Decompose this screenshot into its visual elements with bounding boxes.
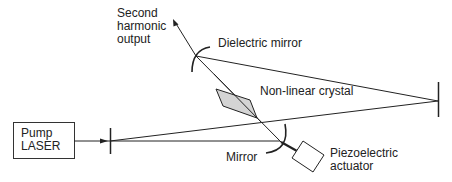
output-arrowhead-icon [173,19,179,27]
output-label-line3: output [117,33,166,46]
piezo-stem [281,142,297,151]
pump-beam-arrowhead-icon [100,139,108,144]
dielectric-mirror [192,47,210,72]
piezo-label-line2: actuator [330,160,398,173]
piezo-actuator-box [292,141,324,172]
pump-laser-label: Pump LASER [21,127,60,153]
curved-mirror [266,124,286,153]
laser-label: LASER [21,140,60,153]
second-harmonic-output-label: Second harmonic output [117,7,166,46]
piezo-actuator-label: Piezoelectric actuator [330,147,398,173]
nonlinear-crystal-label: Non-linear crystal [260,85,353,98]
second-harmonic-beam [175,22,196,56]
mirror-label: Mirror [226,151,257,164]
dielectric-mirror-label: Dielectric mirror [218,37,302,50]
nonlinear-crystal [216,89,257,118]
